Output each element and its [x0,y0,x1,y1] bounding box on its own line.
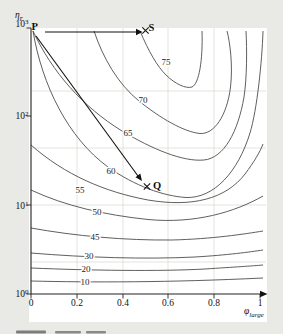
contour-label-50: 50 [93,207,103,217]
point-label-P: P [32,21,39,32]
x-tick-label-0.6: 0.6 [162,298,174,308]
y-tick-label-10: 101 [16,200,30,212]
cropped-caption-fragment [16,331,106,334]
contour-plot-figure: 75 70 65 60 55 50 45 30 20 10 0 0.2 0.4 … [0,0,283,334]
plot-canvas: 75 70 65 60 55 50 45 30 20 10 0 0.2 0.4 … [0,0,283,334]
contour-label-55: 55 [76,185,86,195]
y-tick-labels: 103 102 101 100 [16,18,30,300]
contour-label-70: 70 [139,95,149,105]
contour-label-10: 10 [81,277,91,287]
contour-label-20: 20 [82,264,92,274]
point-label-Q: Q [153,180,161,191]
y-tick-label-1: 100 [16,288,30,300]
contour-label-30: 30 [85,251,95,261]
x-tick-label-0.4: 0.4 [117,298,129,308]
y-tick-label-100: 102 [16,110,30,122]
x-tick-label-1: 1 [258,298,263,308]
contour-label-65: 65 [124,128,134,138]
contour-label-60: 60 [107,166,117,176]
x-tick-label-0.2: 0.2 [71,298,83,308]
x-tick-label-0: 0 [29,298,34,308]
contour-label-75: 75 [162,57,172,67]
point-label-S: S [149,22,155,33]
contour-label-45: 45 [91,232,101,242]
x-tick-label-0.8: 0.8 [208,298,220,308]
